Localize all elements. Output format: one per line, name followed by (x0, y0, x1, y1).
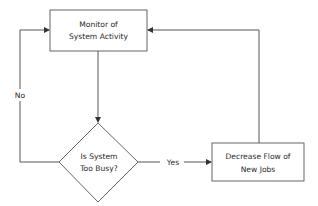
node-decrease: Decrease Flow of New Jobs (212, 143, 304, 181)
edge-decision-decrease: Yes (138, 158, 211, 167)
edge-decrease-monitor (148, 30, 259, 143)
node-decision-line2: Too Busy? (79, 164, 118, 173)
node-decrease-line1: Decrease Flow of (225, 152, 290, 161)
node-decision-line1: Is System (81, 152, 118, 161)
edge-label-no: No (15, 91, 26, 100)
node-monitor: Monitor of System Activity (50, 10, 147, 51)
node-monitor-line1: Monitor of (79, 20, 118, 29)
edge-label-yes: Yes (166, 158, 179, 167)
node-decrease-line2: New Jobs (241, 165, 276, 174)
node-decision: Is System Too Busy? (59, 123, 138, 202)
flowchart: Monitor of System Activity Is System Too… (0, 0, 318, 206)
node-monitor-line2: System Activity (69, 32, 129, 41)
